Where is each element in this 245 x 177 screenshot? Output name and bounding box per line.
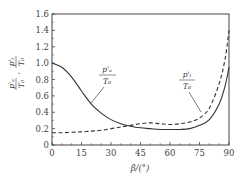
- y-tick-label: 0.2: [35, 124, 49, 134]
- y-axis-title-top-numerator: p'ₐ: [7, 79, 16, 89]
- x-tick-label: 60: [165, 148, 176, 158]
- annotation-pa-over-t0: p'ₐ T₀: [91, 65, 116, 103]
- y-axis-title-bottom-denominator: T₀: [17, 58, 26, 66]
- y-tick-label: 0.4: [35, 107, 49, 117]
- y-axis-title-fraction-top: p'ₐ T₀: [7, 78, 26, 90]
- plot-frame: [52, 14, 229, 145]
- annotation-pa-denominator: T₀: [103, 77, 111, 86]
- chart: 00.20.40.60.81.01.21.41.6 0153045607590 …: [0, 0, 245, 177]
- annotation-pt-leader-line: [189, 92, 201, 112]
- y-tick-label: 1.4: [35, 25, 49, 35]
- x-tick-label: 15: [76, 148, 87, 158]
- y-axis-title: p'ₐ T₀ , p'ₜ T₀: [7, 56, 26, 90]
- plot-area-border: [52, 14, 229, 145]
- x-axis-ticks: 0153045607590: [49, 142, 234, 158]
- x-tick-label: 30: [106, 148, 117, 158]
- annotation-pt-over-t0: p'ₜ T₀: [179, 70, 201, 112]
- y-tick-label: 1.6: [35, 9, 49, 19]
- series-lines: [52, 30, 229, 132]
- y-tick-label: 1.0: [35, 58, 49, 68]
- y-axis-title-top-denominator: T₀: [17, 80, 26, 88]
- annotation-pt-numerator: p'ₜ: [183, 70, 192, 79]
- x-tick-label: 90: [224, 148, 235, 158]
- annotation-pt-denominator: T₀: [183, 82, 191, 91]
- y-tick-label: 0.8: [35, 75, 49, 85]
- y-tick-label: 1.2: [35, 42, 49, 52]
- annotation-pa-numerator: p'ₐ: [102, 65, 112, 74]
- y-tick-label: 0.6: [35, 91, 49, 101]
- annotation-pa-leader-line: [91, 87, 104, 103]
- y-axis-title-bottom-numerator: p'ₜ: [7, 57, 16, 66]
- series-pt-over-t0-dashed-line: [52, 30, 229, 132]
- x-axis-title: β/(°): [130, 163, 150, 173]
- y-axis-ticks: 00.20.40.60.81.01.21.41.6: [35, 9, 55, 150]
- x-tick-label: 0: [49, 148, 54, 158]
- x-tick-label: 75: [194, 148, 205, 158]
- x-tick-label: 45: [135, 148, 146, 158]
- y-tick-label: 0: [44, 140, 49, 150]
- series-pa-over-t0-solid-line: [52, 63, 229, 129]
- y-axis-title-fraction-bottom: p'ₜ T₀: [7, 56, 26, 68]
- y-axis-title-separator: ,: [12, 72, 21, 74]
